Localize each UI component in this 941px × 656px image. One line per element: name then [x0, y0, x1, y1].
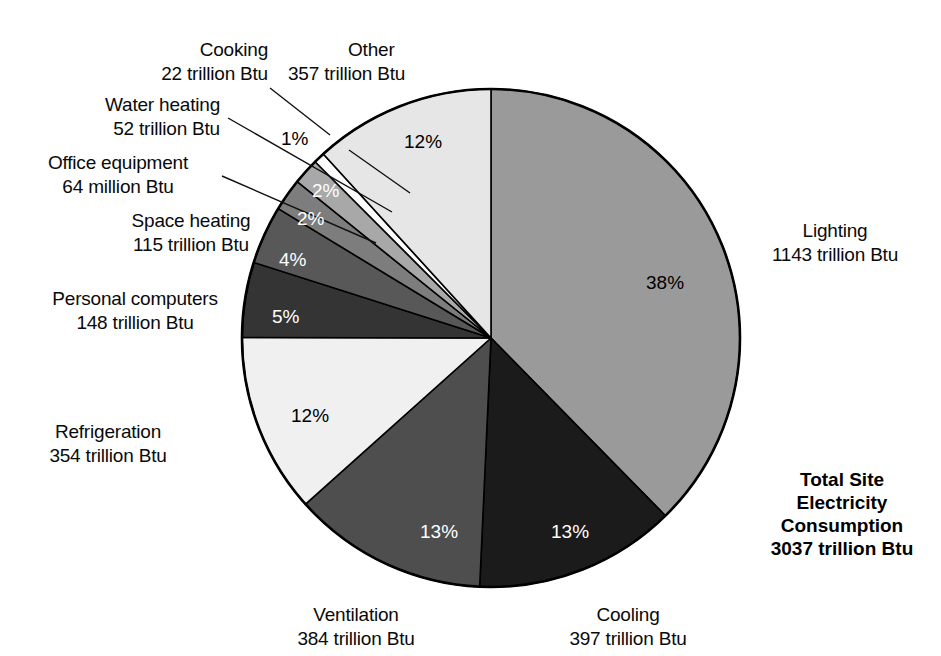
pct-label-refrigeration: 12% — [291, 405, 329, 427]
slice-label-refrigeration: Refrigeration 354 trillion Btu — [8, 420, 208, 468]
total-line-1: Total Site — [752, 468, 932, 491]
pct-label-office-equipment: 2% — [297, 208, 324, 230]
pct-label-personal-computers: 5% — [272, 306, 299, 328]
total-line-4: 3037 trillion Btu — [752, 537, 932, 560]
pct-label-water-heating: 2% — [312, 180, 339, 202]
pct-label-cooling: 13% — [551, 521, 589, 543]
pie-chart-figure: Cooking 22 trillion Btu Other 357 trilli… — [0, 0, 941, 656]
pct-label-ventilation: 13% — [420, 521, 458, 543]
total-line-2: Electricity — [752, 491, 932, 514]
slice-label-cooking: Cooking 22 trillion Btu — [100, 38, 268, 86]
slice-label-space-heating: Space heating 115 trillion Btu — [96, 209, 286, 257]
pct-label-cooking: 1% — [281, 128, 308, 150]
pct-label-other: 12% — [404, 131, 442, 153]
slice-label-cooling: Cooling 397 trillion Btu — [528, 603, 728, 651]
pie-slices-group — [242, 89, 740, 587]
slice-label-personal-computers: Personal computers 148 trillion Btu — [22, 287, 248, 335]
slice-label-office-equipment: Office equipment 64 million Btu — [18, 151, 218, 199]
total-consumption-label: Total Site Electricity Consumption 3037 … — [752, 468, 932, 560]
slice-label-water-heating: Water heating 52 trillion Btu — [48, 93, 220, 141]
pct-label-lighting: 38% — [646, 272, 684, 294]
total-line-3: Consumption — [752, 514, 932, 537]
slice-label-lighting: Lighting 1143 trillion Btu — [740, 219, 930, 267]
pct-label-space-heating: 4% — [279, 249, 306, 271]
slice-label-ventilation: Ventilation 384 trillion Btu — [256, 603, 456, 651]
slice-label-other: Other 357 trillion Btu — [288, 38, 488, 86]
